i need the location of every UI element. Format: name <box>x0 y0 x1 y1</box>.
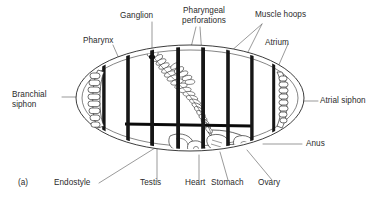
figure-panel-a: Pharynx Ganglion Pharyngeal perforations… <box>0 0 381 202</box>
label-ganglion: Ganglion <box>120 11 153 21</box>
label-pharyngeal-perforations: Pharyngeal perforations <box>173 6 235 25</box>
endostyle <box>125 124 252 126</box>
leader-stomach <box>220 152 228 180</box>
label-atrium: Atrium <box>265 38 289 48</box>
muscle-hoop-5 <box>201 46 205 150</box>
label-heart: Heart <box>185 178 205 188</box>
ganglion <box>149 55 155 59</box>
viscera-group <box>169 134 261 157</box>
label-testis: Testis <box>140 178 161 188</box>
label-anus: Anus <box>306 139 325 149</box>
label-stomach: Stomach <box>211 178 244 188</box>
muscle-hoop-3 <box>150 46 154 150</box>
muscle-hoop-1 <box>102 46 105 150</box>
label-atrial-siphon: Atrial siphon <box>320 96 366 106</box>
muscle-hoop-6 <box>226 46 230 150</box>
label-ovary: Ovary <box>258 178 280 188</box>
label-muscle-hoops: Muscle hoops <box>255 10 306 20</box>
leader-ovary <box>247 150 272 180</box>
label-branchial-siphon: Branchial siphon <box>12 90 47 109</box>
muscle-hoop-4 <box>176 46 180 150</box>
label-pharynx: Pharynx <box>83 36 113 46</box>
panel-marker: (a) <box>18 178 28 187</box>
anus-inner <box>257 143 260 146</box>
label-endostyle: Endostyle <box>54 178 90 188</box>
muscle-hoop-2 <box>126 46 130 150</box>
muscle-hoop-7 <box>250 46 253 150</box>
